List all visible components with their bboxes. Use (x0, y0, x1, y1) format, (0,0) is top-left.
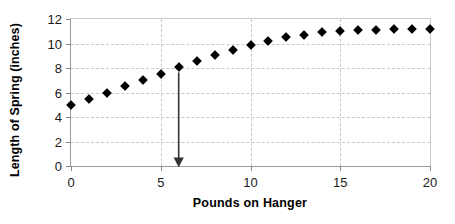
x-tick-label: 15 (333, 175, 347, 190)
x-tick-label: 20 (423, 175, 437, 190)
y-axis-title: Length of Spring (inches) (2, 10, 28, 190)
x-tick-mark (71, 166, 72, 171)
x-tick-label: 0 (67, 175, 74, 190)
drop-arrow-annotation (71, 19, 430, 166)
x-tick-label: 10 (243, 175, 257, 190)
x-tick-mark (430, 166, 431, 171)
y-tick-label: 6 (55, 85, 62, 100)
x-tick-mark (161, 166, 162, 171)
y-tick-label: 8 (55, 61, 62, 76)
y-tick-label: 12 (48, 12, 62, 27)
spring-length-chart: Length of Spring (inches) Pounds on Hang… (0, 0, 455, 224)
y-tick-label: 4 (55, 110, 62, 125)
x-axis-title: Pounds on Hanger (70, 196, 430, 210)
plot-area: 024681012 05101520 (70, 18, 431, 167)
x-tick-label: 5 (157, 175, 164, 190)
y-tick-label: 2 (55, 134, 62, 149)
x-tick-mark (251, 166, 252, 171)
y-tick-label: 0 (55, 159, 62, 174)
y-tick-label: 10 (48, 36, 62, 51)
x-tick-mark (340, 166, 341, 171)
